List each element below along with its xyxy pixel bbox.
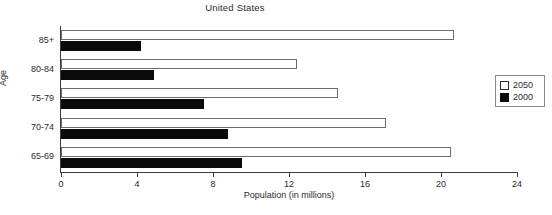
bar-2000-85+ [61,41,141,51]
x-axis-tick [61,172,62,177]
plot-area: 65-6970-7475-7980-8485+ 04812162024 [61,26,517,172]
chart-title: United States [0,2,470,13]
y-axis-tick-label: 75-79 [0,93,54,103]
x-axis-tick-label: 8 [193,179,233,189]
bar-group: 65-69 [61,143,517,172]
x-axis-tick-label: 20 [421,179,461,189]
bar-2000-80-84 [61,70,154,80]
x-axis-tick-label: 12 [269,179,309,189]
bar-group: 70-74 [61,114,517,143]
x-axis-tick-label: 24 [497,179,537,189]
bar-2000-65-69 [61,158,242,168]
bar-2050-75-79 [61,88,338,98]
y-axis-tick-label: 65-69 [0,151,54,161]
x-axis-tick-label: 0 [41,179,81,189]
bar-2000-75-79 [61,99,204,109]
y-axis-tick-label: 70-74 [0,122,54,132]
white-square-icon [500,81,509,90]
x-axis-tick [289,172,290,177]
bar-2000-70-74 [61,129,228,139]
legend-item-2000: 2000 [500,91,540,103]
bar-2050-80-84 [61,59,297,69]
x-axis-tick-label: 4 [117,179,157,189]
bar-group: 80-84 [61,55,517,84]
x-axis-tick [517,172,518,177]
bar-group: 75-79 [61,84,517,113]
x-axis-tick [441,172,442,177]
x-axis-title: Population (in millions) [61,190,517,200]
black-square-icon [500,93,509,102]
bar-group: 85+ [61,26,517,55]
x-axis-tick-label: 16 [345,179,385,189]
x-axis-tick [137,172,138,177]
x-axis-tick [365,172,366,177]
bar-2050-70-74 [61,118,386,128]
legend-label: 2000 [513,92,533,102]
chart-legend: 20502000 [495,75,545,107]
bar-2050-85+ [61,30,454,40]
y-axis-tick-label: 85+ [0,35,54,45]
bar-2050-65-69 [61,147,451,157]
x-axis-tick [213,172,214,177]
y-axis-tick-label: 80-84 [0,64,54,74]
bar-chart: United States Age 65-6970-7475-7980-8485… [0,0,552,215]
legend-label: 2050 [513,80,533,90]
legend-item-2050: 2050 [500,79,540,91]
